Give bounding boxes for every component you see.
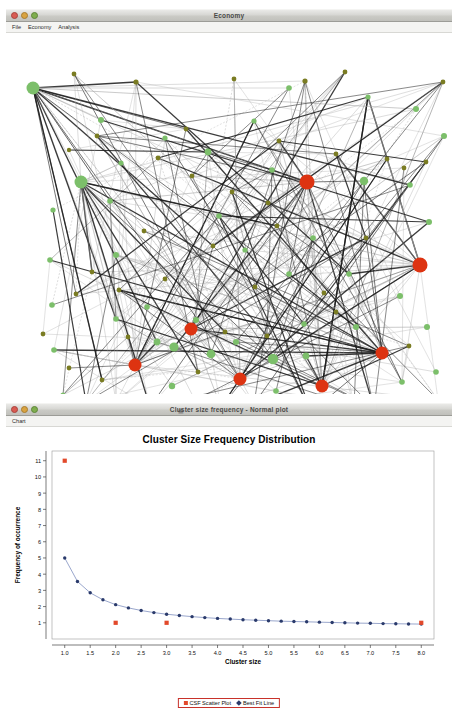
network-node[interactable] (98, 117, 104, 123)
network-node[interactable] (251, 118, 256, 123)
network-node[interactable] (118, 160, 123, 165)
best-fit-point[interactable] (127, 606, 130, 609)
best-fit-point[interactable] (139, 609, 142, 612)
best-fit-point[interactable] (330, 621, 333, 624)
best-fit-point[interactable] (76, 580, 79, 583)
network-node[interactable] (51, 347, 57, 353)
network-node[interactable] (156, 156, 161, 161)
best-fit-point[interactable] (190, 615, 193, 618)
network-node[interactable] (346, 271, 352, 277)
network-node[interactable] (353, 324, 359, 330)
network-node[interactable] (154, 339, 161, 346)
best-fit-point[interactable] (381, 622, 384, 625)
network-node[interactable] (162, 135, 167, 140)
best-fit-point[interactable] (63, 556, 66, 559)
menu-analysis[interactable]: Analysis (58, 24, 79, 30)
network-node[interactable] (424, 160, 429, 165)
network-hub-node[interactable] (234, 373, 247, 386)
network-hub-node[interactable] (316, 380, 329, 393)
titlebar-chart[interactable]: ▦ Cluster size frequency - Normal plot (6, 403, 452, 416)
network-node[interactable] (223, 330, 228, 335)
network-node[interactable] (424, 324, 430, 330)
network-node[interactable] (322, 291, 327, 296)
network-node[interactable] (233, 339, 239, 345)
network-node[interactable] (67, 148, 71, 152)
network-hub-node[interactable] (300, 175, 315, 190)
network-node[interactable] (169, 342, 178, 351)
window-economy[interactable]: Economy File Economy Analysis (6, 9, 452, 394)
network-node[interactable] (169, 383, 175, 389)
network-node[interactable] (413, 106, 419, 112)
network-hub-node[interactable] (185, 323, 198, 336)
network-node[interactable] (230, 190, 235, 195)
network-node[interactable] (268, 354, 278, 364)
network-node[interactable] (47, 257, 53, 263)
network-graph-canvas[interactable] (6, 33, 452, 394)
network-hub-node[interactable] (413, 258, 428, 273)
network-node[interactable] (426, 219, 432, 225)
network-node[interactable] (74, 292, 79, 297)
menubar-economy[interactable]: File Economy Analysis (6, 22, 452, 33)
network-node[interactable] (207, 350, 216, 359)
network-node[interactable] (360, 177, 368, 185)
network-node[interactable] (397, 293, 403, 299)
best-fit-point[interactable] (343, 621, 346, 624)
network-node[interactable] (90, 270, 95, 275)
network-node[interactable] (277, 139, 282, 144)
csf-scatter-point[interactable] (114, 621, 118, 625)
menubar-chart[interactable]: Chart (6, 416, 452, 427)
best-fit-point[interactable] (203, 616, 206, 619)
network-node[interactable] (95, 134, 100, 139)
network-node[interactable] (232, 77, 237, 82)
network-node[interactable] (266, 201, 271, 206)
best-fit-point[interactable] (267, 619, 270, 622)
legend-item-scatter[interactable]: CSF Scatter Plot (184, 700, 231, 706)
network-node[interactable] (407, 182, 413, 188)
network-node[interactable] (205, 149, 212, 156)
best-fit-point[interactable] (280, 619, 283, 622)
network-node[interactable] (407, 344, 412, 349)
network-node[interactable] (286, 271, 292, 277)
best-fit-point[interactable] (356, 621, 359, 624)
best-fit-point[interactable] (407, 622, 410, 625)
network-hub-node[interactable] (129, 359, 142, 372)
chart-legend[interactable]: CSF Scatter Plot Best Fit Line (178, 698, 280, 708)
network-node[interactable] (343, 70, 348, 75)
network-node[interactable] (67, 366, 72, 371)
best-fit-point[interactable] (305, 620, 308, 623)
network-node[interactable] (286, 85, 292, 91)
network-node[interactable] (133, 79, 138, 84)
csf-scatter-point[interactable] (165, 621, 169, 625)
best-fit-point[interactable] (229, 617, 232, 620)
network-node[interactable] (184, 127, 189, 132)
network-node[interactable] (193, 317, 199, 323)
network-node[interactable] (113, 252, 119, 258)
network-node[interactable] (142, 229, 147, 234)
best-fit-point[interactable] (394, 622, 397, 625)
titlebar-economy[interactable]: Economy (6, 9, 452, 22)
legend-item-bestfit[interactable]: Best Fit Line (237, 700, 274, 706)
best-fit-point[interactable] (165, 613, 168, 616)
network-node[interactable] (334, 310, 339, 315)
best-fit-point[interactable] (89, 591, 92, 594)
best-fit-point[interactable] (152, 611, 155, 614)
network-node[interactable] (242, 247, 247, 252)
plot-area[interactable]: 12345678910111.01.52.02.53.03.54.04.55.0… (6, 445, 452, 677)
network-node[interactable] (334, 152, 339, 157)
best-fit-point[interactable] (241, 618, 244, 621)
network-node[interactable] (302, 78, 307, 83)
network-node[interactable] (126, 335, 131, 340)
network-node[interactable] (253, 285, 258, 290)
network-node[interactable] (75, 176, 88, 189)
network-node[interactable] (365, 94, 370, 99)
network-node[interactable] (113, 316, 119, 322)
network-node[interactable] (441, 80, 446, 85)
window-chart[interactable]: ▦ Cluster size frequency - Normal plot C… (6, 403, 452, 709)
network-node[interactable] (364, 236, 369, 241)
best-fit-point[interactable] (369, 622, 372, 625)
network-node[interactable] (402, 166, 407, 171)
network-node[interactable] (303, 353, 310, 360)
csf-scatter-point[interactable] (63, 459, 67, 463)
network-node[interactable] (100, 378, 105, 383)
menu-file[interactable]: File (12, 24, 21, 30)
